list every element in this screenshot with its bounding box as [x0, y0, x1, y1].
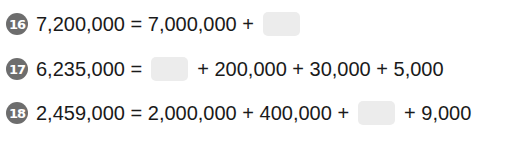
problem-18: 18 2,459,000 = 2,000,000 + 400,000 + + 9… — [6, 100, 471, 126]
equation: 6,235,000 = + 200,000 + 30,000 + 5,000 — [36, 57, 444, 81]
equation-right: + 9,000 — [404, 102, 471, 125]
equation-left: 2,459,000 = 2,000,000 + 400,000 + — [36, 102, 349, 125]
equation: 2,459,000 = 2,000,000 + 400,000 + + 9,00… — [36, 101, 471, 125]
problem-16: 16 7,200,000 = 7,000,000 + — [6, 11, 309, 37]
equation-right: + 200,000 + 30,000 + 5,000 — [197, 58, 443, 81]
answer-blank[interactable] — [358, 101, 395, 125]
answer-blank[interactable] — [263, 12, 300, 36]
answer-blank[interactable] — [151, 57, 188, 81]
equation-left: 7,200,000 = 7,000,000 + — [36, 13, 254, 36]
problem-17: 17 6,235,000 = + 200,000 + 30,000 + 5,00… — [6, 56, 444, 82]
problem-number-badge: 18 — [6, 102, 28, 124]
equation: 7,200,000 = 7,000,000 + — [36, 12, 309, 36]
equation-left: 6,235,000 = — [36, 58, 142, 81]
problem-number-badge: 17 — [6, 58, 28, 80]
problem-number-badge: 16 — [6, 13, 28, 35]
